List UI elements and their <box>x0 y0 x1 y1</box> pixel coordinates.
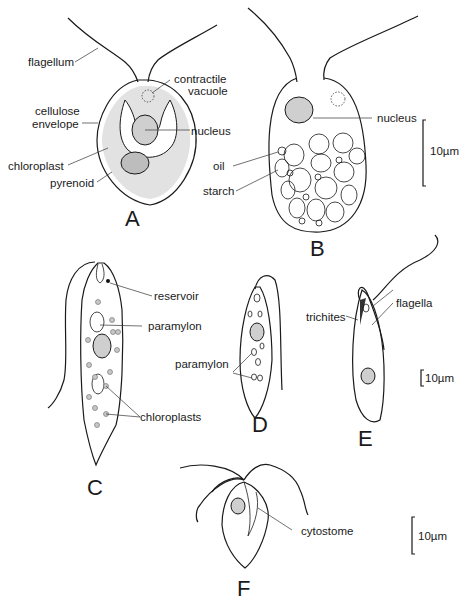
cell-f-body <box>222 482 268 568</box>
cytostome <box>244 482 258 536</box>
nucleus-b <box>285 97 313 123</box>
paramylon-c-1 <box>90 312 104 332</box>
scale-label-b: 10µm <box>430 145 459 157</box>
scale-bar-e <box>421 370 424 386</box>
reservoir-c <box>96 264 104 283</box>
nucleus-e <box>361 368 375 384</box>
panel-letter-e: E <box>358 426 373 452</box>
flagellum-f-4 <box>212 478 244 492</box>
label-flagellum: flagellum <box>28 56 74 68</box>
label-trichites: trichites <box>306 311 346 323</box>
cell-e-body <box>353 290 385 422</box>
nucleus-c <box>93 334 111 358</box>
label-cellulose-envelope-2: envelope <box>32 118 79 130</box>
cell-d-body <box>240 287 272 418</box>
label-paramylon-d: paramylon <box>175 358 229 370</box>
vacuole-b <box>331 92 345 106</box>
scale-label-e: 10µm <box>425 372 454 384</box>
panel-letter-c: C <box>87 475 103 501</box>
flagellum-e-long <box>373 235 438 300</box>
pyrenoid <box>121 152 149 174</box>
cell-f <box>180 464 415 568</box>
flagellum-c <box>48 262 95 408</box>
label-reservoir: reservoir <box>154 290 199 302</box>
label-contractile-vacuole-1: contractile <box>174 73 226 85</box>
label-starch: starch <box>203 185 234 197</box>
panel-letter-f: F <box>237 576 250 602</box>
panel-letter-b: B <box>310 236 325 262</box>
nucleus-f <box>231 498 245 514</box>
flagellum-b-right <box>324 16 418 80</box>
flagellum-a-left <box>68 18 138 82</box>
label-chloroplasts: chloroplasts <box>140 411 201 423</box>
label-contractile-vacuole-2: vacuole <box>188 85 228 97</box>
paramylon-d <box>248 311 264 381</box>
label-paramylon-c: paramylon <box>148 320 202 332</box>
label-chloroplast: chloroplast <box>8 160 64 172</box>
scale-label-f: 10µm <box>418 530 447 542</box>
label-nucleus-a: nucleus <box>191 125 231 137</box>
label-pyrenoid: pyrenoid <box>50 177 94 189</box>
starch-grains <box>275 133 365 226</box>
scale-bar-f <box>412 517 415 554</box>
flagellum-f-3 <box>244 464 308 515</box>
scale-bar-b <box>423 120 426 186</box>
label-flagella: flagella <box>396 297 432 309</box>
label-cellulose-envelope-1: cellulose <box>35 105 80 117</box>
panel-letter-a: A <box>125 206 140 232</box>
panel-letter-d: D <box>252 412 268 438</box>
cell-c <box>48 262 152 465</box>
cell-e <box>346 235 438 422</box>
flagellum-b-left <box>248 8 297 82</box>
label-oil: oil <box>213 160 225 172</box>
label-nucleus-b: nucleus <box>377 112 417 124</box>
label-cytostome: cytostome <box>301 525 353 537</box>
nucleus-d <box>250 323 264 341</box>
flagellum-e-short <box>358 287 384 350</box>
cell-d <box>233 276 282 418</box>
